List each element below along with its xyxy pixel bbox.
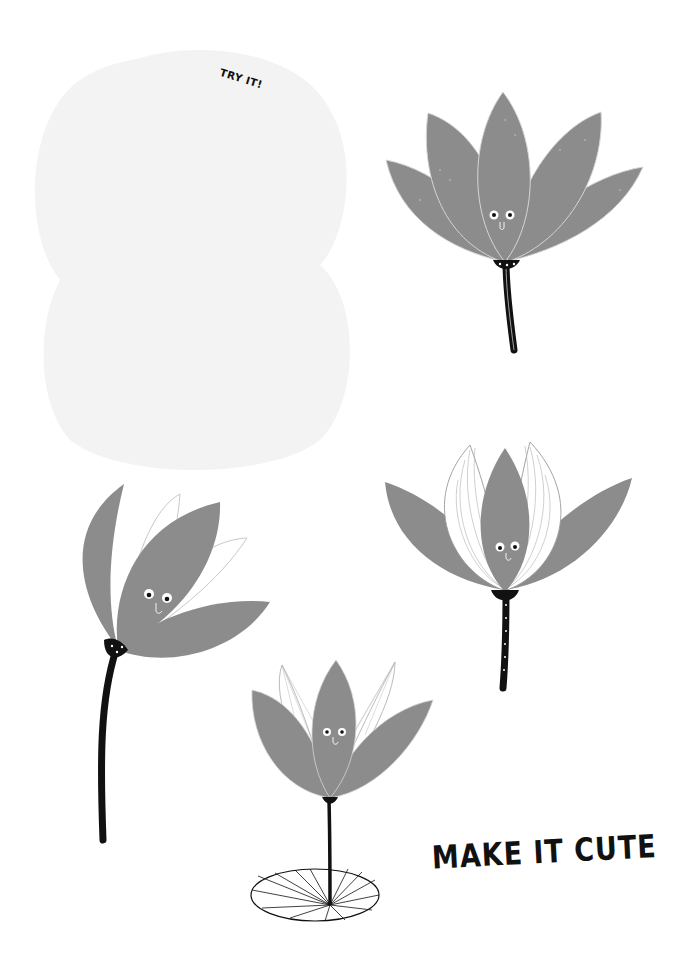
tilted-bud-lotus-flower (83, 484, 270, 840)
stem (101, 650, 116, 840)
stem (506, 262, 514, 350)
striped-lotus-flower (385, 442, 632, 688)
open-lotus-flower (386, 92, 643, 350)
lily-pad (251, 869, 379, 921)
practice-drawing-area[interactable] (35, 50, 350, 470)
lily-pad-lotus-flower (251, 660, 433, 921)
illustration-canvas (0, 0, 685, 961)
stem (329, 800, 330, 905)
stem (503, 592, 506, 688)
activity-page: TRY IT! MAKE IT CUTE (0, 0, 685, 961)
sepal (322, 797, 338, 804)
sepal (491, 590, 519, 601)
